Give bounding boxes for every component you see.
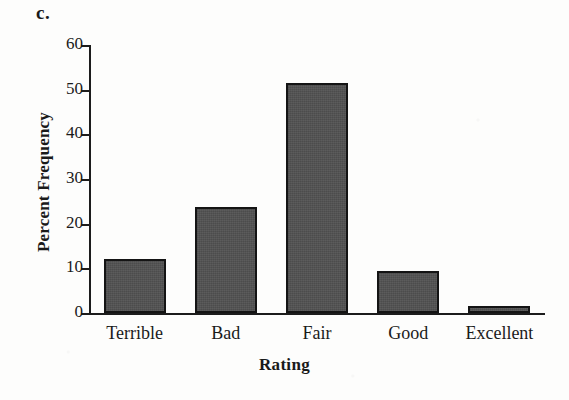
bar bbox=[286, 83, 348, 313]
x-axis-line bbox=[87, 313, 545, 315]
x-axis-tick-label: Excellent bbox=[454, 323, 545, 344]
x-axis-tick-label: Good bbox=[363, 323, 454, 344]
y-axis-tick-label: 60 bbox=[66, 34, 83, 54]
bar-fill-texture bbox=[106, 261, 164, 311]
y-axis-tick-label: 40 bbox=[66, 123, 83, 143]
x-axis-title: Rating bbox=[0, 355, 569, 375]
y-axis-tick-label: 20 bbox=[66, 213, 83, 233]
y-axis-tick-label: 30 bbox=[66, 168, 83, 188]
y-axis-tick-label: 0 bbox=[75, 302, 84, 322]
x-axis-tick-label: Fair bbox=[271, 323, 362, 344]
bar-fill-texture bbox=[197, 209, 255, 311]
y-axis-title: Percent Frequency bbox=[34, 72, 54, 292]
bar bbox=[195, 207, 257, 313]
x-axis-tick-label: Bad bbox=[180, 323, 271, 344]
plot-area: 0102030405060 TerribleBadFairGoodExcelle… bbox=[89, 45, 545, 313]
figure-panel: c. Percent Frequency 0102030405060 Terri… bbox=[0, 0, 569, 400]
bar bbox=[377, 271, 439, 313]
panel-letter: c. bbox=[36, 2, 50, 24]
bar-fill-texture bbox=[379, 273, 437, 311]
bar bbox=[104, 259, 166, 313]
bar bbox=[468, 306, 530, 313]
bar-fill-texture bbox=[470, 308, 528, 311]
y-axis-tick-label: 10 bbox=[66, 257, 83, 277]
bar-fill-texture bbox=[288, 85, 346, 311]
x-axis-tick-label: Terrible bbox=[89, 323, 180, 344]
y-axis-tick-label: 50 bbox=[66, 79, 83, 99]
